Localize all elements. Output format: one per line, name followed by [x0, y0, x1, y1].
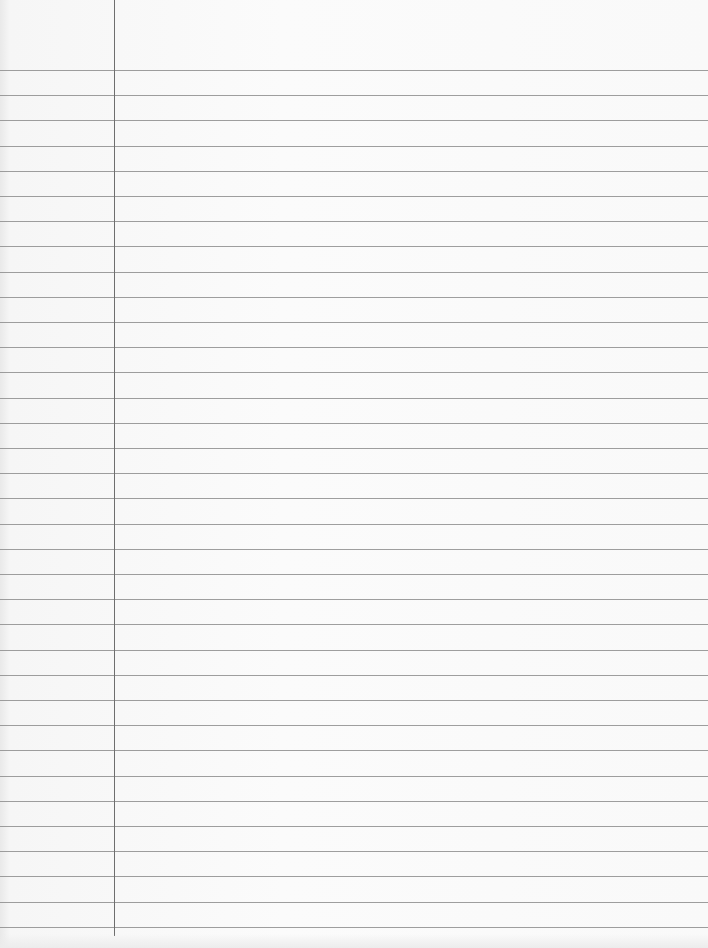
ruled-line: [0, 473, 708, 474]
ruled-line: [0, 221, 708, 222]
ruled-line: [0, 246, 708, 247]
ruled-line: [0, 549, 708, 550]
margin-line: [114, 0, 115, 936]
ruled-line: [0, 347, 708, 348]
ruled-line: [0, 272, 708, 273]
ruled-line: [0, 725, 708, 726]
ruled-line: [0, 196, 708, 197]
ruled-line: [0, 120, 708, 121]
ruled-line: [0, 146, 708, 147]
ruled-line: [0, 851, 708, 852]
ruled-line: [0, 599, 708, 600]
ruled-line: [0, 750, 708, 751]
ruled-line: [0, 70, 708, 71]
ruled-line: [0, 624, 708, 625]
ruled-line: [0, 524, 708, 525]
lined-paper-sheet: [0, 0, 708, 948]
ruled-line: [0, 498, 708, 499]
ruled-line: [0, 171, 708, 172]
ruled-line: [0, 398, 708, 399]
ruled-line: [0, 902, 708, 903]
ruled-line: [0, 574, 708, 575]
page-edge-shadow: [0, 934, 708, 948]
ruled-line: [0, 650, 708, 651]
ruled-line: [0, 675, 708, 676]
ruled-line: [0, 801, 708, 802]
ruled-line: [0, 776, 708, 777]
ruled-line: [0, 95, 708, 96]
ruled-line: [0, 700, 708, 701]
ruled-line: [0, 876, 708, 877]
ruled-line: [0, 826, 708, 827]
ruled-line: [0, 297, 708, 298]
ruled-line: [0, 448, 708, 449]
ruled-line: [0, 927, 708, 928]
ruled-line: [0, 372, 708, 373]
ruled-line: [0, 423, 708, 424]
ruled-line: [0, 322, 708, 323]
